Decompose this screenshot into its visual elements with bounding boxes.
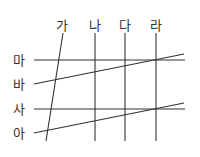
row-label-sa: 사 [13,103,25,116]
column-label-na: 나 [89,19,101,32]
row-label-a: 아 [13,127,25,140]
column-line-ga [46,33,63,141]
line-diagram: 가 나 다 라 마 바 사 아 [0,0,200,157]
row-line-a [34,103,184,133]
column-label-ga: 가 [56,19,68,32]
row-label-ba: 바 [13,78,25,91]
row-label-ma: 마 [13,54,25,67]
column-label-da: 다 [119,19,131,32]
column-label-ra: 라 [150,19,162,32]
row-line-ba [34,54,184,84]
